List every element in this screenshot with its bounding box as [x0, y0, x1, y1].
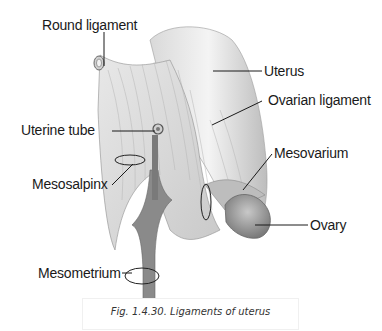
- ligaments-of-uterus-figure: Round ligament Uterus Ovarian ligament U…: [0, 0, 382, 331]
- label-mesosalpinx: Mesosalpinx: [32, 176, 108, 192]
- figure-caption: Fig. 1.4.30. Ligaments of uterus: [83, 306, 298, 317]
- label-mesometrium: Mesometrium: [38, 265, 121, 281]
- label-uterus: Uterus: [264, 63, 304, 79]
- label-uterine-tube: Uterine tube: [21, 122, 95, 138]
- label-ovarian-ligament: Ovarian ligament: [268, 92, 371, 108]
- label-round-ligament: Round ligament: [42, 17, 137, 33]
- uterus-illustration: [0, 0, 382, 331]
- label-ovary: Ovary: [310, 217, 346, 233]
- caption-box: Fig. 1.4.30. Ligaments of uterus: [82, 298, 299, 330]
- label-mesovarium: Mesovarium: [274, 145, 348, 161]
